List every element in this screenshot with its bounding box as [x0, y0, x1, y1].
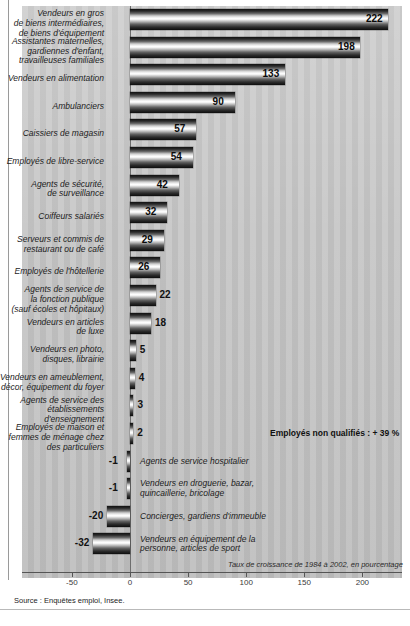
bar-row: 222Vendeurs en gros de biens intermédiai…: [0, 8, 380, 32]
bar: [130, 423, 133, 444]
category-label: Employés de maison et femmes de ménage c…: [0, 423, 104, 452]
bar-row: -1Agents de service hospitalier: [0, 450, 380, 474]
bar-value-label: 90: [213, 96, 224, 107]
x-tick-100: [246, 572, 247, 577]
bar-value-label: 18: [155, 317, 166, 328]
x-tick-label-150: 150: [298, 578, 311, 587]
bar: [130, 395, 133, 416]
bar-value-label: -32: [75, 537, 89, 548]
bar-value-label: 42: [157, 179, 168, 190]
bar-row: 90Ambulanciers: [0, 91, 380, 115]
bar-value-label: 22: [160, 289, 171, 300]
bar: [130, 368, 135, 389]
x-axis-caption: Taux de croissance de 1984 à 2002, en po…: [228, 560, 403, 569]
x-tick-150: [304, 572, 305, 577]
x-tick-200: [362, 572, 363, 577]
bar-value-label: -20: [89, 510, 103, 521]
x-tick-label--50: -50: [66, 578, 78, 587]
bar-value-label: 57: [174, 123, 185, 134]
bar-value-label: 133: [263, 68, 280, 79]
category-label: Concierges, gardiens d'immeuble: [140, 512, 266, 522]
bar: [130, 313, 151, 334]
x-tick--50: [72, 572, 73, 577]
category-label: Agents de service hospitalier: [140, 457, 249, 467]
category-label: Vendeurs en équipement de la personne, a…: [140, 535, 255, 554]
x-tick-label-100: 100: [240, 578, 253, 587]
bar-row: 4Vendeurs en ameublement, décor, équipem…: [0, 367, 380, 391]
bar-row: 57Caissiers de magasin: [0, 118, 380, 142]
bar-value-label: 4: [139, 372, 145, 383]
x-tick-label-50: 50: [184, 578, 193, 587]
bar-row: 22Agents de service de la fonction publi…: [0, 284, 380, 308]
annotation-unqualified-employees: Employés non qualifiés : + 39 %: [270, 428, 399, 438]
category-label: Coiffeurs salariés: [0, 212, 104, 222]
category-label: Vendeurs en photo, disques, librairie: [0, 345, 104, 364]
category-label: Vendeurs en droguerie, bazar, quincaille…: [140, 479, 254, 498]
x-tick-label-200: 200: [356, 578, 369, 587]
x-axis-line: [22, 572, 402, 573]
x-tick-0: [130, 572, 131, 577]
source-note: Source : Enquêtes emploi, Insee.: [14, 596, 124, 605]
x-tick-50: [188, 572, 189, 577]
bar-value-label: -1: [109, 482, 118, 493]
category-label: Assistantes maternelles, gardiennes d'en…: [0, 37, 104, 66]
bar-value-label: 54: [171, 151, 182, 162]
bar: [130, 175, 179, 196]
bar: [107, 506, 130, 527]
bar-value-label: 29: [142, 234, 153, 245]
bar: [127, 478, 130, 499]
bar-row: 133Vendeurs en alimentation: [0, 63, 380, 87]
chart-page: -50050100150200 222Vendeurs en gros de b…: [0, 0, 410, 626]
category-label: Employés de libre-service: [0, 157, 104, 167]
bar: [130, 37, 360, 58]
bar: [130, 285, 156, 306]
category-label: Ambulanciers: [0, 102, 104, 112]
bar: [127, 451, 130, 472]
bar-value-label: 26: [138, 261, 149, 272]
bar-value-label: 222: [366, 13, 383, 24]
bar-row: 3Agents de service des établissements d'…: [0, 394, 380, 418]
category-label: Vendeurs en articles de luxe: [0, 318, 104, 337]
bar: [93, 533, 130, 554]
category-label: Agents de sécurité, de surveillance: [0, 180, 104, 199]
category-label: Serveurs et commis de restaurant ou de c…: [0, 235, 104, 254]
bar-row: 32Coiffeurs salariés: [0, 201, 380, 225]
bar-value-label: -1: [109, 455, 118, 466]
bar: [130, 64, 285, 85]
x-tick-label-0: 0: [128, 578, 132, 587]
bar-row: -1Vendeurs en droguerie, bazar, quincail…: [0, 477, 380, 501]
bar-row: -32Vendeurs en équipement de la personne…: [0, 532, 380, 556]
bar-row: 54Employés de libre-service: [0, 146, 380, 170]
bar-row: 26Employés de l'hôtellerie: [0, 256, 380, 280]
category-label: Agents de service de la fonction publiqu…: [0, 285, 104, 314]
bar-row: 18Vendeurs en articles de luxe: [0, 312, 380, 336]
bar-row: 198Assistantes maternelles, gardiennes d…: [0, 36, 380, 60]
category-label: Agents de service des établissements d'e…: [0, 396, 104, 425]
category-label: Caissiers de magasin: [0, 129, 104, 139]
bar-value-label: 3: [137, 399, 143, 410]
bottom-rule: [0, 609, 410, 610]
bar: [130, 119, 196, 140]
bar-value-label: 198: [338, 41, 355, 52]
bar: [130, 147, 193, 168]
category-label: Vendeurs en ameublement, décor, équipeme…: [0, 373, 104, 392]
bar-value-label: 32: [145, 206, 156, 217]
category-label: Employés de l'hôtellerie: [0, 267, 104, 277]
category-label: Vendeurs en gros de biens intermédiaires…: [0, 9, 104, 38]
bar-row: 29Serveurs et commis de restaurant ou de…: [0, 229, 380, 253]
category-label: Vendeurs en alimentation: [0, 74, 104, 84]
bar-row: 5Vendeurs en photo, disques, librairie: [0, 339, 380, 363]
bar-value-label: 5: [140, 344, 146, 355]
bar: [130, 340, 136, 361]
bar: [130, 9, 388, 30]
bar-row: 42Agents de sécurité, de surveillance: [0, 174, 380, 198]
bar-value-label: 2: [137, 427, 143, 438]
bar-row: -20Concierges, gardiens d'immeuble: [0, 505, 380, 529]
